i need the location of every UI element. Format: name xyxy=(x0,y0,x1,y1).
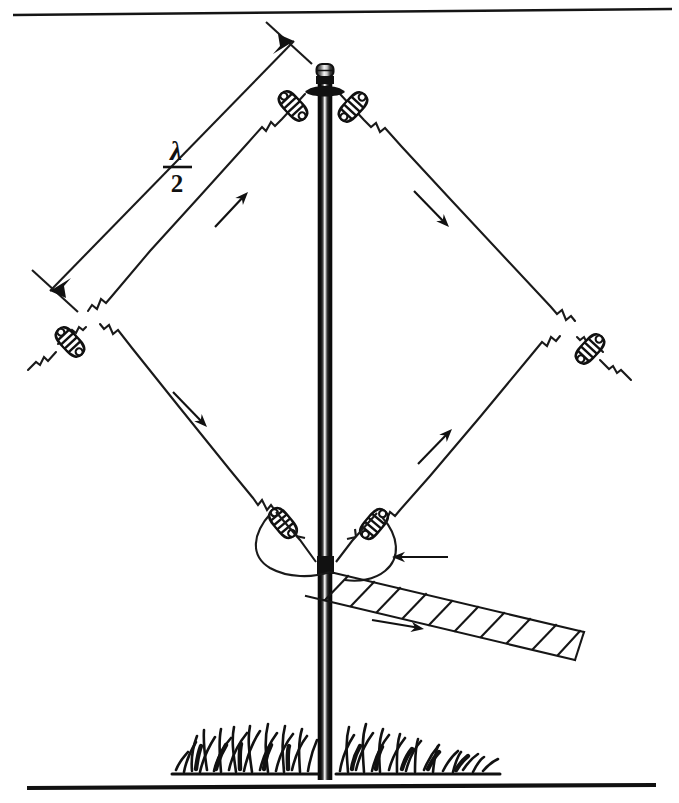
current-arrow-feedline-inbound xyxy=(392,552,448,562)
feed-tail-left-barb xyxy=(296,528,305,538)
guy-wire-left-tail xyxy=(28,352,56,370)
top-rule xyxy=(13,9,672,15)
antenna-diagram-figure: λ 2 xyxy=(0,0,679,803)
mast-cap xyxy=(316,64,334,84)
frame-rules xyxy=(13,9,672,788)
denominator-two: 2 xyxy=(171,170,184,197)
feedline-spacers xyxy=(325,576,580,655)
apex-collar xyxy=(305,86,345,97)
support-mast xyxy=(319,80,332,780)
grass-tufts xyxy=(172,724,500,774)
diagram-canvas: λ 2 xyxy=(0,0,679,803)
lambda-symbol: λ xyxy=(169,136,182,166)
wire-upper-left xyxy=(88,94,305,311)
current-arrow-upper-left-leg xyxy=(215,188,252,227)
wire-lower-left xyxy=(100,324,276,512)
half-wavelength-label: λ 2 xyxy=(163,136,192,197)
support-mast-group xyxy=(305,64,345,780)
bottom-rule xyxy=(27,785,656,788)
current-direction-arrows xyxy=(173,188,456,634)
current-arrow-lower-right-leg xyxy=(418,425,456,464)
wire-upper-right xyxy=(340,94,575,321)
current-arrow-lower-left-leg xyxy=(173,392,211,431)
half-wavelength-dimension: λ 2 xyxy=(32,22,312,312)
feed-tail-right-barb xyxy=(347,529,356,539)
guy-wire-right-tail xyxy=(600,360,631,380)
wire-lower-right xyxy=(377,336,560,521)
ladder-line-feeder xyxy=(306,572,584,660)
feedline-conductor-upper xyxy=(330,572,584,632)
feedline-conductor-lower xyxy=(306,596,575,660)
